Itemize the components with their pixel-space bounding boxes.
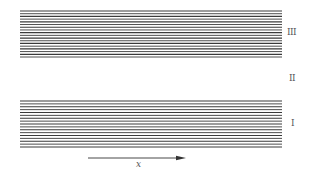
x-axis-label: x [136, 159, 141, 169]
region-label-ii: II [289, 73, 295, 83]
region-i-lines [20, 101, 282, 147]
layer-diagram [0, 0, 309, 172]
region-iii-lines [20, 11, 282, 57]
x-axis-arrowhead [176, 156, 186, 160]
region-label-i: I [291, 118, 294, 128]
region-label-iii: III [287, 27, 296, 37]
